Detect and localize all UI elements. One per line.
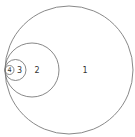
circle-4-label: 4 [7,66,11,74]
nested-circles-diagram: 1 2 3 4 [0,0,135,137]
circle-3-label: 3 [17,66,22,75]
circle-2 [5,43,59,97]
circle-1-label: 1 [82,66,87,75]
circle-2-label: 2 [34,66,39,75]
circle-1 [5,6,133,134]
